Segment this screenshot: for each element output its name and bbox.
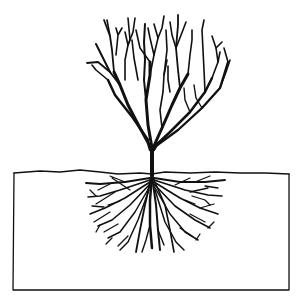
tree-root-drawing [0, 0, 298, 300]
root-system [86, 176, 225, 252]
tree-illustration [0, 0, 298, 300]
tree-crown [87, 15, 230, 148]
